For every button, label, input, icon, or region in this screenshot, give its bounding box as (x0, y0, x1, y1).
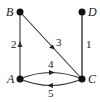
node-label-c: C (88, 72, 97, 86)
edge-a-b: 2 (11, 12, 23, 79)
node-d: D (79, 5, 98, 19)
edge-label-3: 3 (56, 36, 62, 48)
edge-label-5: 5 (48, 87, 54, 99)
edge-label-1: 1 (86, 38, 92, 50)
edge-c-a-lower: 5 (20, 79, 82, 99)
edge-label-2: 2 (11, 38, 17, 50)
node-c: C (79, 72, 98, 86)
arrow-right-icon (49, 70, 55, 75)
node-a: A (6, 72, 24, 86)
node-label-a: A (6, 72, 15, 86)
node-label-d: D (87, 5, 97, 19)
graph-diagram: 1 2 3 4 5 B (0, 0, 100, 102)
arrow-down-right-icon (49, 45, 55, 50)
edge-d-c: 1 (82, 12, 92, 79)
node-b: B (6, 5, 24, 19)
edge-label-4: 4 (48, 58, 54, 70)
arrow-up-icon (18, 41, 23, 47)
node-label-b: B (6, 5, 14, 19)
